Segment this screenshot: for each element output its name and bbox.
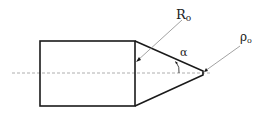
rho0-leader-line [205, 46, 240, 71]
rho0-label: ρo [240, 30, 252, 45]
cone-cylinder-diagram: Ro ρo α [0, 0, 262, 113]
r0-label: Ro [176, 7, 191, 23]
r0-leader-line [137, 20, 182, 61]
cylinder-body [40, 41, 135, 106]
cone-outline [135, 41, 203, 106]
alpha-label: α [180, 46, 188, 59]
rho0-arrowhead-icon [204, 68, 208, 72]
